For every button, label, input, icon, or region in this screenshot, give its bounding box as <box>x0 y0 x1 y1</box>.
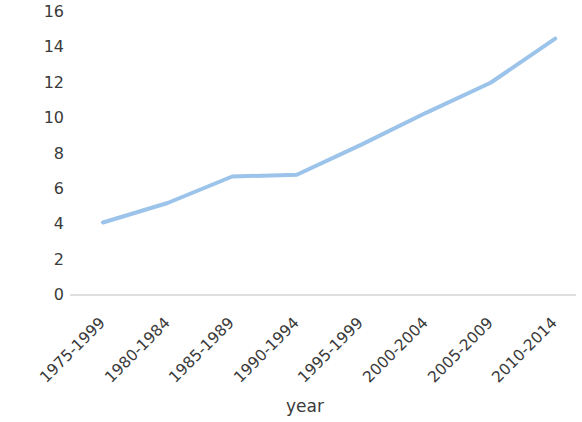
y-tick-label: 10 <box>24 110 64 126</box>
x-axis-title: year <box>286 396 324 416</box>
y-tick-label: 14 <box>24 39 64 55</box>
x-axis-title-container: year <box>0 396 582 416</box>
series-svg <box>70 6 576 298</box>
y-tick-label: 8 <box>24 146 64 162</box>
y-tick-label: 16 <box>24 4 64 20</box>
y-axis-tick-labels: 16 14 12 10 8 6 4 2 0 <box>20 0 64 422</box>
series-line-asr <box>103 39 555 223</box>
y-tick-label: 12 <box>24 75 64 91</box>
plot-area <box>70 6 576 298</box>
line-chart: ASR/100,000 women 16 14 12 10 8 6 4 2 0 … <box>0 0 582 422</box>
y-tick-label: 4 <box>24 216 64 232</box>
y-tick-label: 6 <box>24 181 64 197</box>
y-tick-label: 0 <box>24 287 64 303</box>
y-tick-label: 2 <box>24 252 64 268</box>
